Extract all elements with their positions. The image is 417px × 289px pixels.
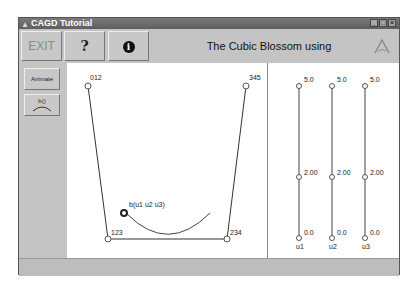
control-point-123[interactable] <box>105 236 111 242</box>
svg-text:5.0: 5.0 <box>370 76 380 83</box>
label-012: 012 <box>90 74 102 81</box>
label-345: 345 <box>249 74 261 81</box>
blossom-point[interactable] <box>121 210 127 216</box>
blossom-button[interactable]: b() <box>24 94 60 116</box>
svg-text:0.0: 0.0 <box>370 229 380 236</box>
label-blossom: b(u1 u2 u3) <box>129 201 165 209</box>
blossom-curve-icon: b() <box>25 95 59 115</box>
minimize-button[interactable]: _ <box>370 19 378 27</box>
svg-text:u2: u2 <box>329 243 337 250</box>
label-123: 123 <box>111 229 123 236</box>
animate-button[interactable]: Animate <box>24 68 60 90</box>
label-234: 234 <box>230 229 242 236</box>
left-panel: Animate b() <box>19 63 68 258</box>
slider-u3[interactable]: 5.0 2.00 0.0 u3 <box>362 76 384 250</box>
blossom-curve <box>127 213 210 234</box>
svg-text:0.0: 0.0 <box>304 229 314 236</box>
svg-text:0.0: 0.0 <box>337 229 347 236</box>
slider-u3-handle[interactable] <box>363 175 368 180</box>
slider-u1-handle[interactable] <box>297 175 302 180</box>
svg-text:u1: u1 <box>296 243 304 250</box>
help-button[interactable]: ? <box>64 31 105 61</box>
svg-text:2.00: 2.00 <box>370 169 384 176</box>
sliders-plot: 5.0 2.00 0.0 u1 5.0 2.00 0.0 u2 <box>268 63 399 258</box>
control-polygon-plot: 012 345 123 234 b(u1 u2 u3) <box>67 63 267 258</box>
slider-u1[interactable]: 5.0 2.00 0.0 u1 <box>296 76 318 250</box>
control-point-234[interactable] <box>224 236 230 242</box>
svg-text:5.0: 5.0 <box>337 76 347 83</box>
status-bar <box>19 258 399 276</box>
lambda-logo-icon <box>373 37 391 55</box>
info-icon: i <box>123 41 135 53</box>
svg-text:5.0: 5.0 <box>304 76 314 83</box>
info-button[interactable]: i <box>108 31 149 61</box>
drawing-canvas[interactable]: 012 345 123 234 b(u1 u2 u3) <box>67 63 268 258</box>
control-polygon <box>88 86 246 239</box>
slider-u2[interactable]: 5.0 2.00 0.0 u2 <box>329 76 351 250</box>
svg-text:b(): b() <box>38 98 45 104</box>
window-title: CAGD Tutorial <box>31 18 92 28</box>
svg-text:2.00: 2.00 <box>337 169 351 176</box>
control-point-012[interactable] <box>85 83 91 89</box>
slider-u2-handle[interactable] <box>330 175 335 180</box>
control-point-345[interactable] <box>243 83 249 89</box>
svg-text:u3: u3 <box>362 243 370 250</box>
maximize-button[interactable]: □ <box>379 19 387 27</box>
toolbar: EXIT ? i The Cubic Blossom using EvalBlo… <box>19 29 399 64</box>
exit-button[interactable]: EXIT <box>21 31 62 61</box>
parameter-sliders-panel: 5.0 2.00 0.0 u1 5.0 2.00 0.0 u2 <box>268 63 399 258</box>
svg-text:2.00: 2.00 <box>304 169 318 176</box>
close-button[interactable]: × <box>388 19 396 27</box>
app-window: ▲ CAGD Tutorial _ □ × EXIT ? i The Cubic… <box>18 17 400 275</box>
title-bar[interactable]: ▲ CAGD Tutorial _ □ × <box>19 18 399 29</box>
